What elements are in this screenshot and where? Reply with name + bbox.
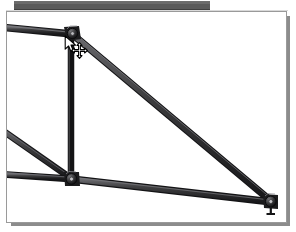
application-window (0, 0, 296, 232)
structure-drawing (7, 12, 286, 222)
joint-right-support[interactable] (263, 194, 278, 215)
joint-mid-bottom[interactable] (64, 172, 80, 187)
member-vertical-post[interactable] (69, 34, 71, 179)
toolbar-gloss (14, 2, 210, 4)
toolbar-strip[interactable] (14, 1, 210, 10)
member-diagonal-main[interactable] (72, 32, 272, 201)
member-top-chord-left[interactable] (7, 25, 72, 34)
member-web-diagonal[interactable] (7, 126, 72, 179)
drawing-canvas[interactable] (6, 11, 287, 223)
joint-apex[interactable] (64, 26, 81, 41)
